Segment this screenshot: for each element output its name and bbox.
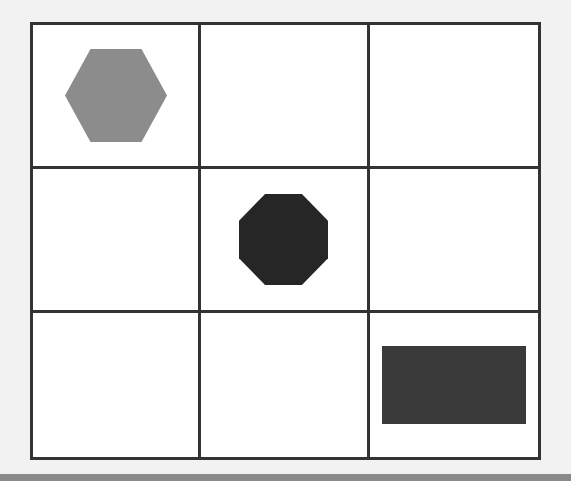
grid-cell-r1c3[interactable] [370,25,538,169]
octagon-shape[interactable] [239,194,328,285]
grid-cell-r2c1[interactable] [33,169,201,313]
grid-cell-r3c3[interactable] [370,313,538,457]
grid-cell-r3c1[interactable] [33,313,201,457]
grid-cell-r1c2[interactable] [201,25,369,169]
grid-cell-r1c1[interactable] [33,25,201,169]
shape-grid [30,22,541,460]
rectangle-shape[interactable] [382,346,526,424]
grid-cell-r3c2[interactable] [201,313,369,457]
scene-canvas [0,0,571,481]
bottom-status-bar [0,474,571,481]
grid-cell-r2c2[interactable] [201,169,369,313]
hexagon-shape[interactable] [65,49,167,142]
grid-cell-r2c3[interactable] [370,169,538,313]
